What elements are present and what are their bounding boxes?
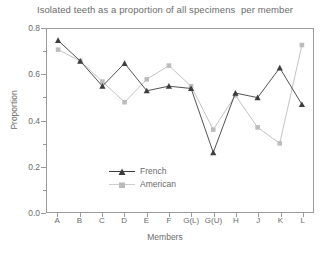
legend-label-french: French xyxy=(140,166,166,177)
x-tick-label: B xyxy=(77,216,82,225)
data-point-french-H xyxy=(232,90,238,96)
data-point-french-L xyxy=(299,101,305,107)
legend-swatch-french xyxy=(109,166,135,177)
series-line-american xyxy=(58,45,302,143)
y-axis-title: Proportion xyxy=(9,70,19,150)
x-axis-title: Members xyxy=(0,232,330,242)
data-point-american-D xyxy=(122,100,127,105)
x-tick-label: G(L) xyxy=(183,216,199,225)
chart-title: Isolated teeth as a proportion of all sp… xyxy=(0,4,330,15)
data-point-french-G(U) xyxy=(210,149,216,155)
data-point-french-D xyxy=(122,60,128,66)
data-point-american-G(U) xyxy=(211,127,216,132)
y-tick-mark xyxy=(41,213,46,214)
chart-legend: French American xyxy=(109,165,176,191)
data-point-american-F xyxy=(167,63,172,68)
x-tick-label: H xyxy=(233,216,239,225)
y-tick-label: 0.2 xyxy=(0,162,40,172)
x-tick-label: A xyxy=(54,216,59,225)
data-point-american-E xyxy=(144,77,149,82)
legend-item-french: French xyxy=(109,165,176,178)
legend-swatch-american xyxy=(109,179,135,190)
data-point-french-F xyxy=(166,83,172,89)
y-tick-label: 0.8 xyxy=(0,23,40,33)
x-tick-label: J xyxy=(256,216,260,225)
triangle-marker-icon xyxy=(118,168,126,178)
data-point-french-K xyxy=(277,65,283,71)
x-tick-label: F xyxy=(166,216,171,225)
y-tick-label: 0.6 xyxy=(0,69,40,79)
y-tick-label: 0.0 xyxy=(0,208,40,218)
series-line-french xyxy=(58,40,302,152)
x-tick-label: L xyxy=(301,216,305,225)
legend-label-american: American xyxy=(140,179,176,190)
y-tick-label: 0.4 xyxy=(0,116,40,126)
x-tick-label: C xyxy=(99,216,105,225)
data-point-american-J xyxy=(255,125,260,130)
data-point-american-K xyxy=(277,141,282,146)
x-tick-label: E xyxy=(144,216,149,225)
x-tick-label: K xyxy=(278,216,283,225)
legend-item-american: American xyxy=(109,178,176,191)
x-tick-label: G(U) xyxy=(205,216,222,225)
data-point-american-A xyxy=(56,47,61,52)
series-layer xyxy=(47,29,313,212)
data-point-american-L xyxy=(300,43,305,48)
plot-area: French American xyxy=(46,28,314,213)
chart-container: Isolated teeth as a proportion of all sp… xyxy=(0,0,330,260)
x-tick-label: D xyxy=(121,216,127,225)
data-point-french-A xyxy=(55,37,61,43)
square-marker-icon xyxy=(118,181,126,191)
